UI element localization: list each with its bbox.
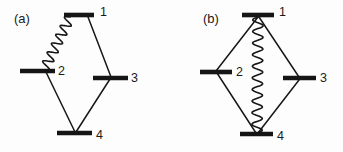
panel-b-level-3-label: 3 [320,71,327,85]
panel-b-wavy-1-4 [252,17,263,133]
diagram-content: (a)1234(b)1234 [14,5,327,143]
panel-a-wavy-1-2 [43,17,72,71]
panel-a-coupling-3-4 [76,79,110,132]
panel-a: (a)1234 [14,5,138,142]
panel-a-coupling-2-4 [45,70,75,132]
panel-b-coupling-1-3 [259,17,299,77]
panel-b-level-2-label: 2 [236,65,243,79]
energy-level-diagram: (a)1234(b)1234 [0,0,343,152]
panel-b-coupling-1-2 [216,17,258,71]
panel-a-caption: (a) [14,11,30,26]
panel-b-level-4-label: 4 [277,129,284,143]
panel-a-coupling-1-3 [88,17,111,77]
panel-b: (b)1234 [200,5,327,143]
panel-a-level-3-label: 3 [131,71,138,85]
panel-b-caption: (b) [203,11,219,26]
panel-b-coupling-3-4 [258,80,299,133]
panel-a-level-2-label: 2 [58,64,65,78]
panel-a-level-4-label: 4 [96,128,103,142]
panel-b-coupling-2-4 [217,73,256,133]
figure-root: (a)1234(b)1234 [0,0,343,152]
panel-a-level-1-label: 1 [100,5,107,19]
panel-b-level-1-label: 1 [279,5,286,19]
